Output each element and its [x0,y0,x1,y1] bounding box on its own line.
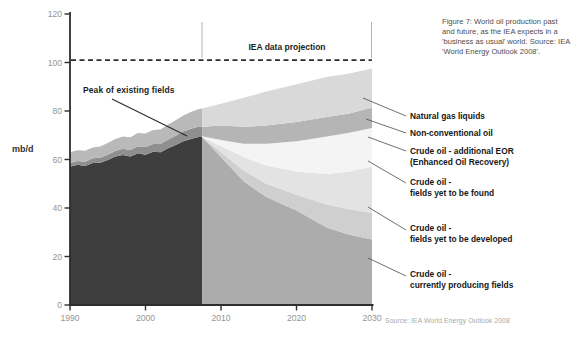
legend-label-line: fields yet to be developed [410,234,512,245]
legend-label-fields-yet-to-be-developed: Crude oil - fields yet to be developed [410,223,512,245]
leader-line-additional-eor [368,137,406,151]
axis-tick-label: 2010 [211,313,230,323]
axis-tick-label: 40 [52,203,62,213]
axis-tick-label: 100 [48,58,63,68]
source-note: Source: IEA World Energy Outlook 2008 [385,317,510,324]
figure-caption: Figure 7: World oil production past and … [442,17,570,57]
projection-bracket-label: IEA data projection [204,42,370,52]
legend-label-currently-producing-fields: Crude oil - currently producing fields [410,269,513,291]
legend-label-line: Natural gas liquids [410,111,485,122]
legend-label-natural-gas-liquids: Natural gas liquids [410,111,485,122]
legend-label-line: (Enhanced Oil Recovery) [410,157,514,168]
axis-tick-label: 20 [52,252,62,262]
axis-tick-label: 0 [57,300,62,310]
legend-label-line: currently producing fields [410,280,513,291]
figure-7-oil-production-chart: 02040608010012019902000201020202030 mb/d… [0,0,573,341]
legend-label-line: Crude oil - [410,177,494,188]
legend-label-non-conventional-oil: Non-conventional oil [410,128,493,139]
axis-tick-label: 2000 [136,313,155,323]
axis-tick-label: 80 [52,106,62,116]
leader-line-currently-producing-fields [368,258,406,276]
legend-label-line: Crude oil - [410,269,513,280]
legend-label-line: Crude oil - [410,223,512,234]
leader-line-fields-yet-to-be-found [368,161,406,183]
axis-tick-label: 1990 [60,313,79,323]
stacked-area-layers [70,69,372,305]
leader-line-fields-yet-to-be-developed [368,207,406,230]
legend-label-additional-eor: Crude oil - additional EOR (Enhanced Oil… [410,146,514,168]
legend-label-line: Crude oil - additional EOR [410,146,514,157]
axis-tick-label: 2030 [362,313,381,323]
peak-annotation-line [112,99,187,136]
legend-label-line: fields yet to be found [410,188,494,199]
axis-tick-label: 2020 [287,313,306,323]
peak-of-existing-fields-label: Peak of existing fields [83,85,175,95]
axis-tick-label: 60 [52,155,62,165]
y-axis-unit-label: mb/d [12,144,34,154]
legend-label-line: Non-conventional oil [410,128,493,139]
axis-tick-label: 120 [48,9,63,19]
legend-label-fields-yet-to-be-found: Crude oil - fields yet to be found [410,177,494,199]
